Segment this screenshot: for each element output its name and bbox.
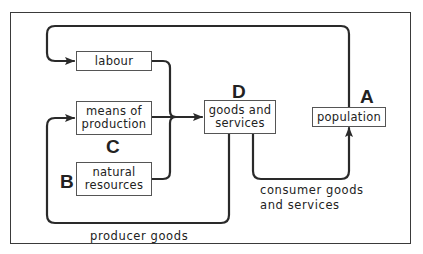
- letter-d: D: [232, 82, 246, 101]
- node-population: population: [312, 107, 386, 127]
- letter-a: A: [360, 87, 374, 106]
- arrow-labour-to-junction: [152, 61, 176, 117]
- node-labour: labour: [76, 51, 152, 71]
- node-means-of-production: means of production: [76, 101, 152, 135]
- node-labour-label: labour: [95, 55, 133, 68]
- node-resources-label: natural resources: [85, 166, 143, 192]
- node-goods-and-services: goods and services: [204, 100, 276, 134]
- letter-b: B: [60, 172, 74, 191]
- letter-c: C: [106, 137, 120, 156]
- arrow-consumer-goods: [253, 128, 349, 179]
- caption-consumer-goods: consumer goods and services: [260, 183, 364, 213]
- node-means-label: means of production: [82, 105, 147, 131]
- arrow-resources-to-junction: [152, 117, 176, 179]
- node-goods-label: goods and services: [209, 104, 272, 130]
- caption-producer-goods: producer goods: [90, 229, 188, 244]
- node-natural-resources: natural resources: [76, 162, 152, 196]
- node-population-label: population: [317, 111, 381, 124]
